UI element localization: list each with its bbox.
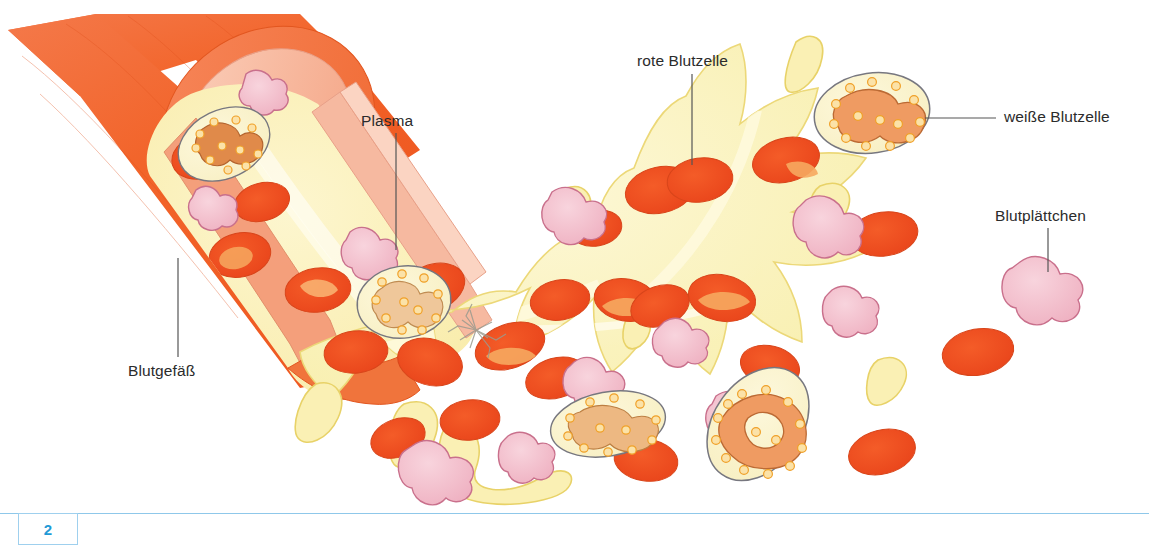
label-weisse-blutzelle: weiße Blutzelle: [1004, 108, 1110, 126]
platelet: [542, 187, 607, 244]
platelet: [822, 286, 878, 337]
white-blood-cell: [809, 65, 935, 160]
red-blood-cell: [844, 422, 921, 481]
label-blutgefaess: Blutgefäß: [128, 362, 195, 380]
blood-vessel-illustration: [0, 0, 1149, 553]
platelet: [1002, 257, 1083, 325]
red-blood-cell: [939, 323, 1018, 381]
page-root: Plasma rote Blutzelle weiße Blutzelle Bl…: [0, 0, 1149, 553]
label-plasma: Plasma: [361, 112, 413, 130]
platelet: [498, 432, 554, 483]
footer-rule: [0, 513, 1149, 514]
label-blutplaettchen: Blutplättchen: [995, 207, 1086, 225]
label-rote-blutzelle: rote Blutzelle: [637, 52, 728, 70]
page-number: 2: [44, 521, 52, 538]
page-number-box: 2: [18, 513, 78, 545]
